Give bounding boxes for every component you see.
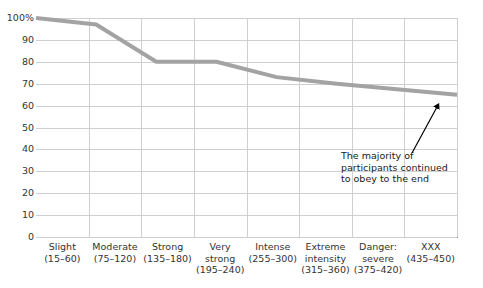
annotation-arrow-icon [390, 95, 460, 155]
x-axis-tick-name: Strong [141, 241, 194, 253]
x-axis-tick-name: Slight [36, 241, 89, 253]
line-chart: 100%9080706050403020100 Slight(15–60)Mod… [0, 0, 483, 288]
annotation-line-1: The majority of [341, 150, 461, 162]
x-axis-tick-name: Very strong [194, 241, 247, 264]
x-axis-tick-range: (255–300) [247, 253, 300, 265]
y-axis-tick-label: 0 [0, 232, 34, 242]
x-axis-tick-label: Intense(255–300) [247, 241, 300, 264]
x-axis-tick-range: (315–360) [299, 264, 352, 276]
y-axis-tick-label: 60 [0, 101, 34, 111]
x-axis-tick-name: Moderate [89, 241, 142, 253]
x-axis-tick-label: Danger: severe(375–420) [352, 241, 405, 276]
y-axis-tick-label: 20 [0, 188, 34, 198]
x-axis-tick-label: Moderate(75–120) [89, 241, 142, 264]
gridline-horizontal [36, 237, 457, 238]
y-axis-tick-label: 30 [0, 166, 34, 176]
x-axis-tick-label: Slight(15–60) [36, 241, 89, 264]
y-axis-tick-label: 40 [0, 144, 34, 154]
x-axis-tick-range: (195–240) [194, 264, 247, 276]
y-axis-tick-label: 100% [0, 13, 34, 23]
x-axis-tick-name: Extreme intensity [299, 241, 352, 264]
x-axis-tick-label: Very strong(195–240) [194, 241, 247, 276]
x-axis-labels: Slight(15–60)Moderate(75–120)Strong(135–… [36, 241, 457, 286]
x-axis-tick-name: Intense [247, 241, 300, 253]
y-axis-tick-label: 10 [0, 210, 34, 220]
x-axis-tick-range: (375–420) [352, 264, 405, 276]
y-axis-tick-label: 90 [0, 35, 34, 45]
x-axis-tick-range: (135–180) [141, 253, 194, 265]
annotation-line-3: to obey to the end [341, 173, 461, 185]
x-axis-tick-name: XXX [404, 241, 457, 253]
y-axis-tick-label: 50 [0, 123, 34, 133]
x-axis-tick-range: (435–450) [404, 253, 457, 265]
y-axis-tick-label: 70 [0, 79, 34, 89]
x-axis-tick-label: XXX(435–450) [404, 241, 457, 264]
x-axis-tick-range: (75–120) [89, 253, 142, 265]
x-axis-tick-label: Extreme intensity(315–360) [299, 241, 352, 276]
annotation-text: The majority of participants continued t… [341, 150, 461, 185]
x-axis-tick-name: Danger: severe [352, 241, 405, 264]
x-axis-tick-label: Strong(135–180) [141, 241, 194, 264]
annotation-line-2: participants continued [341, 162, 461, 174]
x-axis-tick-range: (15–60) [36, 253, 89, 265]
y-axis-tick-label: 80 [0, 57, 34, 67]
y-axis-labels: 100%9080706050403020100 [0, 0, 34, 288]
